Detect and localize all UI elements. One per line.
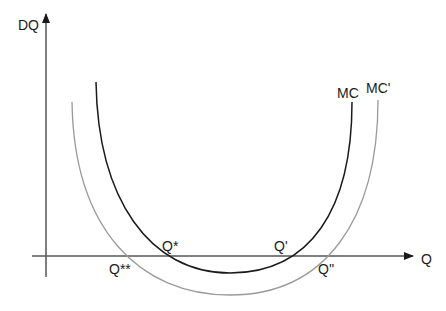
mc-label: MC: [337, 85, 359, 101]
q-prime-label: Q': [274, 238, 288, 254]
q-double-star-label: Q**: [109, 261, 131, 277]
mc-prime-label: MC': [366, 80, 390, 96]
x-axis-label: Q: [421, 251, 432, 267]
y-axis-label: DQ: [18, 17, 39, 33]
mc-curve: [96, 82, 352, 273]
q-star-label: Q*: [162, 238, 179, 254]
mc-diagram: DQ Q MC MC' Q* Q' Q** Q'': [0, 0, 446, 311]
q-double-prime-label: Q'': [318, 261, 334, 277]
